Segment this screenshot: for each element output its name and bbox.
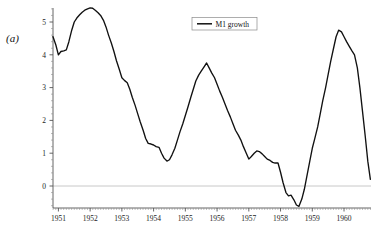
- x-tick-label: 1955: [178, 214, 193, 223]
- x-tick-label: 1960: [337, 214, 352, 223]
- x-tick-label: 1951: [51, 214, 66, 223]
- y-tick-label: 0: [42, 182, 46, 191]
- x-tick-label: 1952: [83, 214, 98, 223]
- x-axis-ticks: 1951195219531954195519561957195819591960: [51, 208, 352, 223]
- line-chart: 012345 195119521953195419551956195719581…: [0, 0, 372, 233]
- legend-label-m1-growth: M1 growth: [216, 20, 250, 29]
- series-line-m1-growth: [53, 8, 370, 206]
- x-tick-label: 1954: [146, 214, 161, 223]
- x-tick-label: 1957: [241, 214, 256, 223]
- y-tick-label: 1: [42, 149, 46, 158]
- y-tick-label: 4: [42, 51, 46, 60]
- x-axis-minor-ticks: [53, 208, 370, 210]
- x-tick-label: 1958: [273, 214, 288, 223]
- y-tick-label: 5: [42, 18, 46, 27]
- x-tick-label: 1959: [305, 214, 320, 223]
- y-tick-label: 3: [42, 83, 46, 92]
- figure-panel-a: (a) 012345 19511952195319541955195619571…: [0, 0, 372, 233]
- y-tick-label: 2: [42, 116, 46, 125]
- x-tick-label: 1953: [114, 214, 129, 223]
- chart-legend[interactable]: M1 growth: [192, 18, 257, 31]
- x-tick-label: 1956: [210, 214, 225, 223]
- y-axis-ticks: 012345: [42, 18, 53, 191]
